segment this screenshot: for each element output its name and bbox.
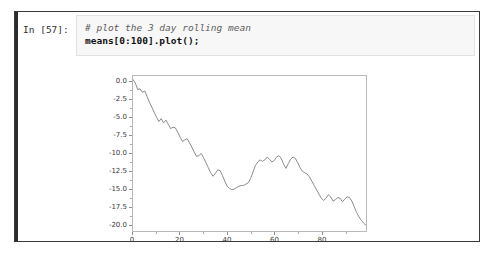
x-tick-minor-mark	[346, 232, 347, 234]
y-tick-label: -17.5	[75, 203, 127, 211]
code-line-comment: # plot the 3 day rolling mean	[85, 22, 474, 35]
x-tick-minor-mark	[156, 232, 157, 234]
x-tick-label: 0	[117, 236, 147, 244]
x-tick-mark	[132, 232, 133, 235]
x-tick-label: 60	[259, 236, 289, 244]
x-tick-minor-mark	[298, 232, 299, 234]
code-editor[interactable]: # plot the 3 day rolling mean means[0:10…	[76, 15, 475, 56]
y-tick-label: -2.5	[75, 95, 127, 103]
y-tick-label: -10.0	[75, 149, 127, 157]
cell-output-area: 0.0-2.5-5.0-7.5-10.0-12.5-15.0-17.5-20.0…	[72, 56, 471, 239]
x-tick-label: 40	[212, 236, 242, 244]
x-tick-label: 80	[307, 236, 337, 244]
x-tick-mark	[322, 232, 323, 235]
x-tick-label: 20	[164, 236, 194, 244]
x-tick-mark	[274, 232, 275, 235]
y-tick-label: -5.0	[75, 113, 127, 121]
y-tick-label: -12.5	[75, 167, 127, 175]
y-tick-label: 0.0	[75, 77, 127, 85]
y-tick-label: -15.0	[75, 185, 127, 193]
series-line-means	[133, 80, 366, 226]
y-tick-label: -20.0	[75, 221, 127, 229]
cell-selection-accent-bar	[15, 12, 18, 241]
plot-axes-frame	[132, 75, 367, 232]
code-line-statement: means[0:100].plot();	[85, 35, 474, 48]
x-tick-minor-mark	[203, 232, 204, 234]
x-tick-mark	[179, 232, 180, 235]
matplotlib-figure: 0.0-2.5-5.0-7.5-10.0-12.5-15.0-17.5-20.0…	[72, 56, 382, 237]
line-series-plot	[133, 76, 366, 231]
notebook-cell[interactable]: In [57]: # plot the 3 day rolling mean m…	[14, 11, 480, 242]
x-tick-mark	[227, 232, 228, 235]
y-tick-label: -7.5	[75, 131, 127, 139]
x-tick-minor-mark	[251, 232, 252, 234]
code-input-row: In [57]: # plot the 3 day rolling mean m…	[19, 15, 477, 58]
